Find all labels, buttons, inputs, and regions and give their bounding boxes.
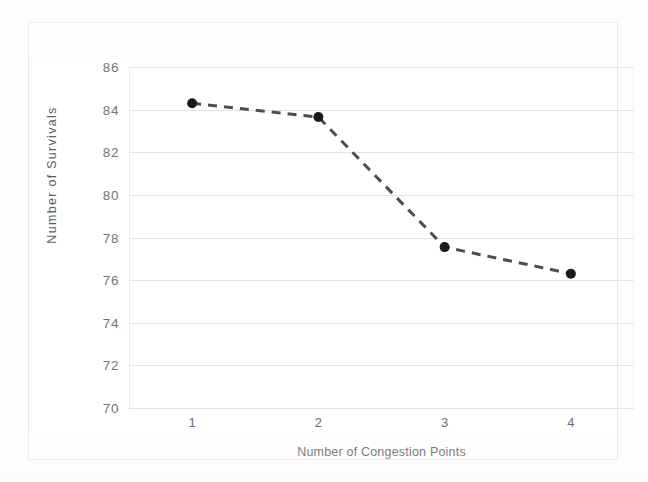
y-tick-label-80: 80 (81, 187, 119, 202)
data-point-2 (313, 112, 323, 122)
x-tick-label-4: 4 (551, 415, 591, 430)
y-tick-label-74: 74 (81, 315, 119, 330)
data-point-1 (187, 98, 197, 108)
y-tick-label-76: 76 (81, 273, 119, 288)
x-tick-label-2: 2 (298, 415, 338, 430)
y-tick-label-78: 78 (81, 230, 119, 245)
y-axis-title: Number of Survivals (45, 90, 59, 260)
x-axis-title: Number of Congestion Points (129, 445, 634, 459)
x-tick-label-3: 3 (425, 415, 465, 430)
data-point-3 (440, 242, 450, 252)
line-series-svg (129, 67, 634, 408)
y-tick-label-84: 84 (81, 102, 119, 117)
y-tick-label-72: 72 (81, 358, 119, 373)
y-tick-label-86: 86 (81, 60, 119, 75)
series-markers (187, 98, 576, 278)
plot-area (129, 67, 634, 408)
gridline-y-70 (129, 408, 634, 409)
y-tick-label-82: 82 (81, 145, 119, 160)
chart-frame: 707274767880828486 Number of Survivals 1… (28, 22, 618, 460)
series-line-number-of-survivals (192, 103, 571, 273)
y-tick-label-70: 70 (81, 401, 119, 416)
data-point-4 (566, 269, 576, 279)
x-tick-label-1: 1 (172, 415, 212, 430)
